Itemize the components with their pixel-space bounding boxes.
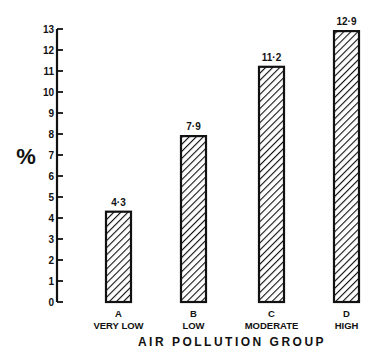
y-tick-label: 9 (48, 108, 54, 119)
bar-d: 12·9DHIGH (334, 16, 359, 331)
y-tick-label: 0 (48, 297, 54, 308)
bar-rect (259, 67, 284, 302)
category-sublabel: MODERATE (245, 320, 299, 331)
y-axis-label: % (16, 144, 36, 169)
bar-c: 11·2CMODERATE (245, 52, 299, 331)
y-tick-label: 11 (43, 66, 54, 77)
data-label: 11·2 (262, 52, 282, 63)
y-tick-label: 4 (48, 213, 54, 224)
category-label: C (268, 308, 275, 319)
category-sublabel: LOW (182, 320, 204, 331)
y-tick-label: 2 (48, 255, 54, 266)
bars: 4·3AVERY LOW7·9BLOW11·2CMODERATE12·9DHIG… (93, 16, 359, 331)
bar-rect (181, 136, 206, 302)
y-tick-label: 1 (48, 276, 54, 287)
y-tick-label: 7 (48, 150, 54, 161)
data-label: 4·3 (111, 197, 126, 208)
category-label: D (343, 308, 350, 319)
category-sublabel: HIGH (335, 320, 359, 331)
category-label: B (190, 308, 197, 319)
data-label: 12·9 (336, 16, 356, 27)
bar-chart: 012345678910111213 4·3AVERY LOW7·9BLOW11… (0, 0, 380, 357)
bar-a: 4·3AVERY LOW (93, 197, 143, 331)
y-tick-label: 5 (48, 192, 54, 203)
bar-rect (334, 31, 359, 302)
x-axis-label: AIR POLLUTION GROUP (138, 335, 326, 349)
chart-canvas: 012345678910111213 4·3AVERY LOW7·9BLOW11… (0, 0, 380, 357)
y-tick-label: 3 (48, 234, 54, 245)
category-sublabel: VERY LOW (93, 320, 143, 331)
bar-b: 7·9BLOW (181, 121, 206, 331)
y-axis: 012345678910111213 (43, 24, 63, 308)
y-tick-label: 12 (43, 45, 55, 56)
y-tick-label: 13 (43, 24, 55, 35)
y-tick-label: 10 (43, 87, 55, 98)
data-label: 7·9 (186, 121, 201, 132)
y-tick-label: 6 (48, 171, 54, 182)
bar-rect (106, 212, 131, 302)
category-label: A (115, 308, 122, 319)
y-tick-label: 8 (48, 129, 54, 140)
